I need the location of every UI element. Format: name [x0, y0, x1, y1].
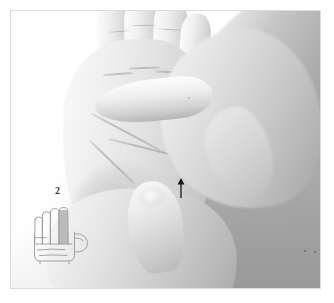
highlighted-index-finger [59, 210, 68, 244]
print-speck [314, 251, 316, 253]
inset-hand-diagram: 2 [25, 188, 91, 266]
inset-digit-label: 2 [55, 186, 60, 196]
figure-root: 2 [0, 0, 334, 303]
print-speck [188, 97, 190, 99]
palm-outline-diagram [25, 198, 91, 266]
photograph: 2 [11, 11, 320, 288]
photo-frame: 2 [10, 10, 321, 289]
